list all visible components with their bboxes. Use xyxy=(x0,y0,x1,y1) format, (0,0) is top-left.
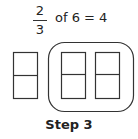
box-grouped-1 xyxy=(62,53,86,99)
box-ungrouped xyxy=(14,53,38,99)
box-grouped-2 xyxy=(96,53,120,99)
step-caption: Step 3 xyxy=(0,117,138,132)
